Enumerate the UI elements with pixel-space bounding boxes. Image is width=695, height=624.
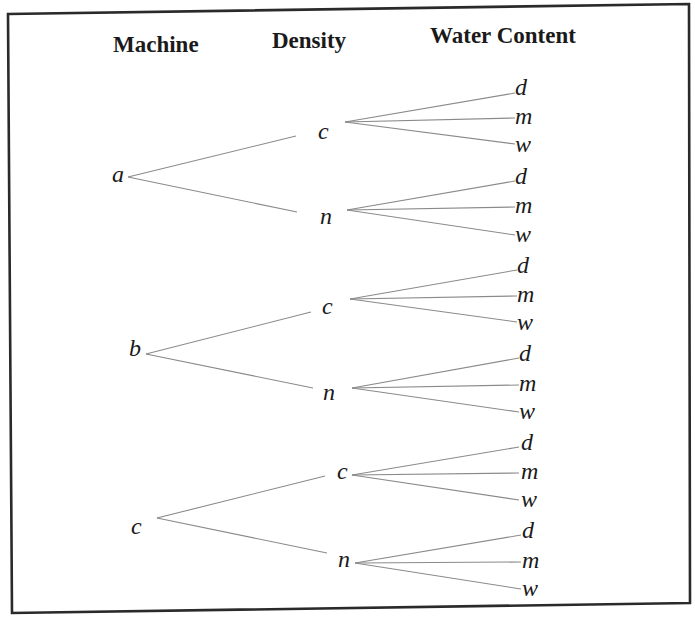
- edge-n-w: [352, 388, 519, 412]
- leaf-w: w: [521, 486, 537, 512]
- branch-machine-c: c c d m w n d m w: [131, 429, 539, 601]
- edge-c-m: [350, 296, 517, 299]
- node-density-n: n: [323, 379, 335, 405]
- tree-diagram-frame: Machine Density Water Content a c d m w …: [0, 0, 695, 624]
- leaf-d: d: [517, 252, 530, 278]
- edge-a-n: [128, 177, 297, 212]
- branch-machine-b: b c d m w n d m w: [129, 252, 536, 424]
- edge-n-m: [355, 562, 521, 563]
- node-density-c: c: [337, 458, 348, 484]
- branch-machine-a: a c d m w n d m w: [112, 74, 532, 247]
- node-density-c: c: [318, 118, 329, 144]
- edge-n-w: [347, 210, 515, 235]
- edge-n-d: [347, 181, 515, 210]
- leaf-m: m: [522, 547, 539, 573]
- tree-diagram: Machine Density Water Content a c d m w …: [0, 0, 695, 624]
- diagram-border: [8, 4, 690, 613]
- leaf-m: m: [515, 103, 532, 129]
- edge-c-d: [352, 447, 519, 475]
- edge-b-n: [146, 354, 313, 388]
- leaf-m: m: [515, 192, 532, 218]
- node-machine-a: a: [112, 161, 124, 187]
- edge-c-n: [157, 518, 327, 553]
- leaf-d: d: [515, 163, 528, 189]
- edge-c-w: [350, 299, 517, 322]
- header-density: Density: [272, 28, 347, 53]
- node-density-n: n: [338, 546, 350, 572]
- node-machine-b: b: [129, 335, 141, 361]
- leaf-m: m: [517, 281, 534, 307]
- leaf-d: d: [519, 340, 532, 366]
- edge-c-m: [345, 118, 515, 122]
- node-density-n: n: [320, 203, 332, 229]
- edge-c-m: [352, 473, 519, 475]
- leaf-d: d: [521, 429, 534, 455]
- leaf-d: d: [522, 517, 535, 543]
- edge-n-d: [352, 358, 519, 388]
- edge-n-m: [352, 385, 519, 388]
- leaf-w: w: [519, 398, 535, 424]
- leaf-m: m: [521, 458, 538, 484]
- edge-c-w: [345, 122, 515, 144]
- header-machine: Machine: [113, 32, 199, 57]
- leaf-d: d: [515, 74, 528, 100]
- edge-n-m: [347, 207, 515, 210]
- edge-a-c: [128, 136, 296, 177]
- header-water-content: Water Content: [430, 23, 576, 48]
- leaf-w: w: [515, 131, 531, 157]
- edge-n-d: [355, 535, 521, 563]
- node-density-c: c: [322, 293, 333, 319]
- leaf-w: w: [515, 221, 531, 247]
- edge-c-d: [345, 93, 515, 122]
- leaf-w: w: [522, 575, 538, 601]
- edge-c-w: [352, 475, 519, 500]
- edge-c-d: [350, 270, 517, 299]
- edge-n-w: [355, 563, 521, 589]
- leaf-m: m: [519, 370, 536, 396]
- node-machine-c: c: [131, 513, 142, 539]
- leaf-w: w: [517, 309, 533, 335]
- edge-b-c: [146, 312, 311, 354]
- edge-c-c: [157, 476, 325, 518]
